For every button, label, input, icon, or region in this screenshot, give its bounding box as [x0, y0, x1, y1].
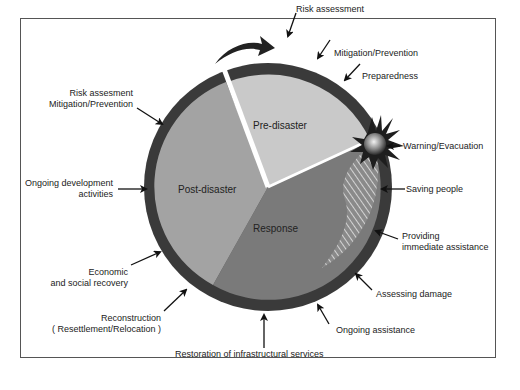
arrow-reconstruction: [164, 290, 186, 311]
label-providing-line2: immediate assistance: [402, 242, 489, 252]
label-risk-assesment-left-line1: Risk assesment: [69, 88, 133, 98]
label-risk-assesment-left-line2: Mitigation/Prevention: [49, 99, 133, 109]
segment-label-pre-disaster: Pre-disaster: [253, 120, 308, 131]
arrow-risk-assesment-left: [137, 108, 162, 124]
arrow-assessing: [356, 274, 372, 290]
label-ongoing-development-line2: activities: [78, 189, 113, 199]
cycle-direction-arrow: [215, 36, 275, 64]
disaster-cycle-diagram: Pre-disaster Response Post-disaster Risk…: [0, 0, 520, 390]
label-providing-line1: Providing: [402, 231, 440, 241]
label-ongoing-assistance: Ongoing assistance: [336, 325, 415, 335]
label-risk-assessment: Risk assessment: [296, 4, 365, 14]
label-economic-line1: Economic: [88, 267, 128, 277]
arrow-risk-assessment: [288, 13, 296, 36]
arrow-mitigation: [318, 40, 330, 58]
label-restoration: Restoration of infrastructural services: [175, 349, 324, 359]
label-mitigation-prevention: Mitigation/Prevention: [334, 48, 418, 58]
label-preparedness: Preparedness: [362, 71, 419, 81]
segment-label-post-disaster: Post-disaster: [178, 184, 237, 195]
label-reconstruction-line1: Reconstruction: [101, 313, 161, 323]
label-reconstruction-line2: ( Resettlement/Relocation ): [52, 324, 161, 334]
arrow-economic: [131, 252, 160, 265]
label-assessing-damage: Assessing damage: [376, 289, 452, 299]
arrow-preparedness: [345, 64, 360, 80]
label-warning-evacuation: Warning/Evacuation: [403, 141, 483, 151]
label-economic-line2: and social recovery: [50, 278, 128, 288]
label-ongoing-development-line1: Ongoing development: [25, 178, 114, 188]
segment-label-response: Response: [253, 223, 298, 234]
arrow-ongoing-assistance: [318, 305, 329, 324]
label-saving-people: Saving people: [406, 184, 463, 194]
